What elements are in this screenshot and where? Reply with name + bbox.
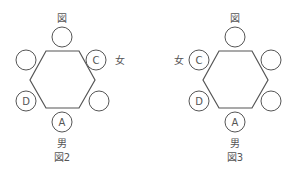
- top-label: 図: [57, 13, 67, 24]
- side-label-female: 女: [115, 54, 125, 66]
- bottom-label-male: 男: [57, 138, 67, 149]
- top-label: 図: [230, 13, 240, 24]
- figure-caption: 図3: [227, 152, 243, 163]
- seat-upper-left: [16, 50, 36, 70]
- side-label-female: 女: [174, 54, 184, 66]
- seat-bottom-label: A: [59, 117, 66, 128]
- seat-bottom-label: A: [232, 117, 239, 128]
- hexagon-table: [30, 51, 95, 108]
- seat-upper-right-label: C: [93, 55, 100, 66]
- figure-2: 図 C D A 女 男 図2: [16, 13, 125, 163]
- seat-upper-right: [261, 50, 281, 70]
- seat-lower-left-label: D: [22, 96, 30, 107]
- seat-upper-left-label: C: [196, 55, 203, 66]
- seat-lower-right: [261, 91, 281, 111]
- figure-3: 図 C D A 女 男 図3: [174, 13, 281, 163]
- seat-top: [52, 27, 72, 47]
- bottom-label-male: 男: [230, 138, 240, 149]
- seat-top: [225, 27, 245, 47]
- hexagon-table: [203, 51, 268, 108]
- seating-diagrams: 図 C D A 女 男 図2 図 C D A 女 男 図3: [0, 0, 297, 175]
- seat-lower-left-label: D: [195, 96, 203, 107]
- seat-lower-right: [89, 91, 109, 111]
- figure-caption: 図2: [54, 152, 70, 163]
